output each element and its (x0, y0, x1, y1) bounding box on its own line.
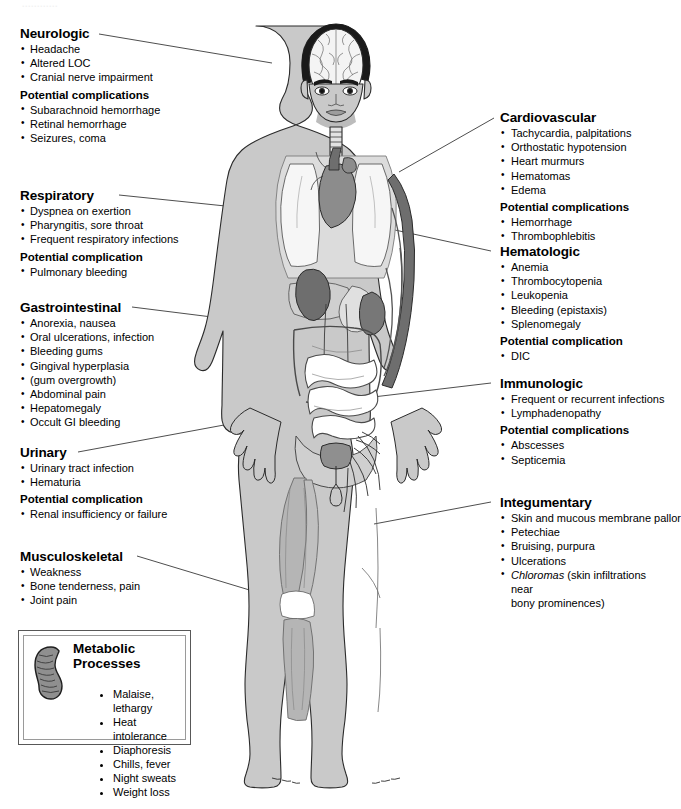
chloromas-continuation: bony prominences) (511, 596, 668, 610)
complications-title-respiratory: Potential complication (20, 250, 179, 264)
symptom-list-integumentary: Skin and mucous membrane pallor Petechia… (500, 511, 668, 610)
complication-list-immunologic: Abscesses Septicemia (500, 438, 664, 466)
section-title-gastrointestinal: Gastrointestinal (20, 300, 154, 315)
list-item-chloromas: Chloromas (skin infiltrations nearbony p… (500, 568, 668, 611)
list-item: Altered LOC (20, 56, 160, 70)
list-item: Bone tenderness, pain (20, 579, 140, 593)
cropped-page-title: ............ (22, 0, 58, 9)
complications-title-cardiovascular: Potential complications (500, 200, 631, 214)
list-item: Pharyngitis, sore throat (20, 218, 179, 232)
section-title-neurologic: Neurologic (20, 26, 160, 41)
metabolic-title: Metabolic Processes (73, 641, 190, 671)
list-item: Heart murmurs (500, 154, 631, 168)
complications-title-neurologic: Potential complications (20, 88, 160, 102)
section-respiratory: Respiratory Dyspnea on exertion Pharyngi… (20, 188, 179, 279)
list-item: Bruising, purpura (500, 539, 668, 553)
section-integumentary: Integumentary Skin and mucous membrane p… (500, 495, 668, 610)
symptom-list-neurologic: Headache Altered LOC Cranial nerve impai… (20, 42, 160, 85)
list-item: Hemorrhage (500, 215, 631, 229)
mitochondrion-icon (31, 645, 65, 701)
list-item: Bleeding gums (20, 344, 154, 358)
list-item: Malaise, lethargy (113, 687, 190, 715)
list-item: Chills, fever (113, 757, 190, 771)
list-item: Abdominal pain (20, 387, 154, 401)
list-item: Pulmonary bleeding (20, 265, 179, 279)
complications-title-urinary: Potential complication (20, 492, 167, 506)
list-item: Splenomegaly (500, 317, 623, 331)
section-neurologic: Neurologic Headache Altered LOC Cranial … (20, 26, 160, 145)
list-item: Retinal hemorrhage (20, 117, 160, 131)
list-item: Occult GI bleeding (20, 415, 154, 429)
list-item: Thrombocytopenia (500, 274, 623, 288)
section-title-immunologic: Immunologic (500, 376, 664, 391)
list-item: Diaphoresis (113, 743, 190, 757)
list-item: Abscesses (500, 438, 664, 452)
symptom-list-urinary: Urinary tract infection Hematuria (20, 461, 167, 489)
complications-title-immunologic: Potential complications (500, 423, 664, 437)
list-item: Thrombophlebitis (500, 229, 631, 243)
section-title-musculoskeletal: Musculoskeletal (20, 549, 140, 564)
list-item: Orthostatic hypotension (500, 140, 631, 154)
section-title-cardiovascular: Cardiovascular (500, 110, 631, 125)
symptom-list-gastrointestinal: Anorexia, nausea Oral ulcerations, infec… (20, 316, 154, 430)
section-title-urinary: Urinary (20, 445, 167, 460)
metabolic-list: Malaise, lethargy Heat intolerance Diaph… (73, 687, 190, 799)
list-item: Leukopenia (500, 288, 623, 302)
list-item: Frequent or recurrent infections (500, 392, 664, 406)
list-item: Skin and mucous membrane pallor (500, 511, 668, 525)
list-item: Petechiae (500, 525, 668, 539)
metabolic-processes-box: Metabolic Processes Malaise, lethargy He… (18, 630, 191, 745)
section-hematologic: Hematologic Anemia Thrombocytopenia Leuk… (500, 244, 623, 363)
list-item: Weakness (20, 565, 140, 579)
list-item: Urinary tract infection (20, 461, 167, 475)
section-cardiovascular: Cardiovascular Tachycardia, palpitations… (500, 110, 631, 243)
symptom-list-musculoskeletal: Weakness Bone tenderness, pain Joint pai… (20, 565, 140, 608)
list-item: Oral ulcerations, infection (20, 330, 154, 344)
list-item: Gingival hyperplasia (20, 359, 154, 373)
list-item: Dyspnea on exertion (20, 204, 179, 218)
complication-list-urinary: Renal insufficiency or failure (20, 507, 167, 521)
section-urinary: Urinary Urinary tract infection Hematuri… (20, 445, 167, 522)
list-item: Hematomas (500, 169, 631, 183)
symptom-list-respiratory: Dyspnea on exertion Pharyngitis, sore th… (20, 204, 179, 247)
complication-list-cardiovascular: Hemorrhage Thrombophlebitis (500, 215, 631, 243)
list-item: Ulcerations (500, 554, 668, 568)
section-title-integumentary: Integumentary (500, 495, 668, 510)
list-item-continuation: (gum overgrowth) (20, 373, 154, 387)
list-item: Weight loss (113, 785, 190, 799)
complication-list-respiratory: Pulmonary bleeding (20, 265, 179, 279)
list-item: Anemia (500, 260, 623, 274)
list-item: Frequent respiratory infections (20, 232, 179, 246)
list-item: Lymphadenopathy (500, 406, 664, 420)
section-immunologic: Immunologic Frequent or recurrent infect… (500, 376, 664, 467)
list-item: Hepatomegaly (20, 401, 154, 415)
complication-list-hematologic: DIC (500, 349, 623, 363)
list-item: Tachycardia, palpitations (500, 126, 631, 140)
symptom-list-hematologic: Anemia Thrombocytopenia Leukopenia Bleed… (500, 260, 623, 331)
list-item: Subarachnoid hemorrhage (20, 103, 160, 117)
section-musculoskeletal: Musculoskeletal Weakness Bone tenderness… (20, 549, 140, 608)
list-item: Hematuria (20, 475, 167, 489)
list-item: Anorexia, nausea (20, 316, 154, 330)
complication-list-neurologic: Subarachnoid hemorrhage Retinal hemorrha… (20, 103, 160, 146)
human-body-figure (186, 8, 486, 803)
symptom-list-cardiovascular: Tachycardia, palpitations Orthostatic hy… (500, 126, 631, 197)
list-item: Renal insufficiency or failure (20, 507, 167, 521)
list-item: Bleeding (epistaxis) (500, 303, 623, 317)
section-title-hematologic: Hematologic (500, 244, 623, 259)
list-item: Night sweats (113, 771, 190, 785)
section-gastrointestinal: Gastrointestinal Anorexia, nausea Oral u… (20, 300, 154, 430)
list-item: Edema (500, 183, 631, 197)
list-item: Joint pain (20, 593, 140, 607)
list-item: Heat intolerance (113, 715, 190, 743)
chloromas-italic: Chloromas (511, 569, 564, 581)
list-item: DIC (500, 349, 623, 363)
list-item: Cranial nerve impairment (20, 70, 160, 84)
symptom-list-immunologic: Frequent or recurrent infections Lymphad… (500, 392, 664, 420)
complications-title-hematologic: Potential complication (500, 334, 623, 348)
list-item: Septicemia (500, 453, 664, 467)
list-item: Headache (20, 42, 160, 56)
section-title-respiratory: Respiratory (20, 188, 179, 203)
list-item: Seizures, coma (20, 131, 160, 145)
